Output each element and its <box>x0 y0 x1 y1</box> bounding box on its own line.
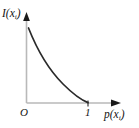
x-axis-label-close-paren: ) <box>121 108 125 120</box>
y-axis-arrow-icon <box>23 12 30 21</box>
y-axis-label-close-paren: ) <box>17 7 21 19</box>
x-axis-label: p(xi) <box>104 109 125 121</box>
x-axis-arrow-icon <box>111 100 121 107</box>
x-axis-label-subscript: i <box>119 114 121 122</box>
origin-label: O <box>20 107 28 118</box>
x-axis-label-var: x <box>114 108 119 120</box>
y-axis-label-subscript: i <box>15 13 17 21</box>
information-curve-figure: I(xi) p(xi) O 1 <box>0 0 139 128</box>
y-axis-label: I(xi) <box>2 8 21 20</box>
x-axis-tick-label-one: 1 <box>85 107 91 118</box>
self-information-curve <box>29 28 89 103</box>
